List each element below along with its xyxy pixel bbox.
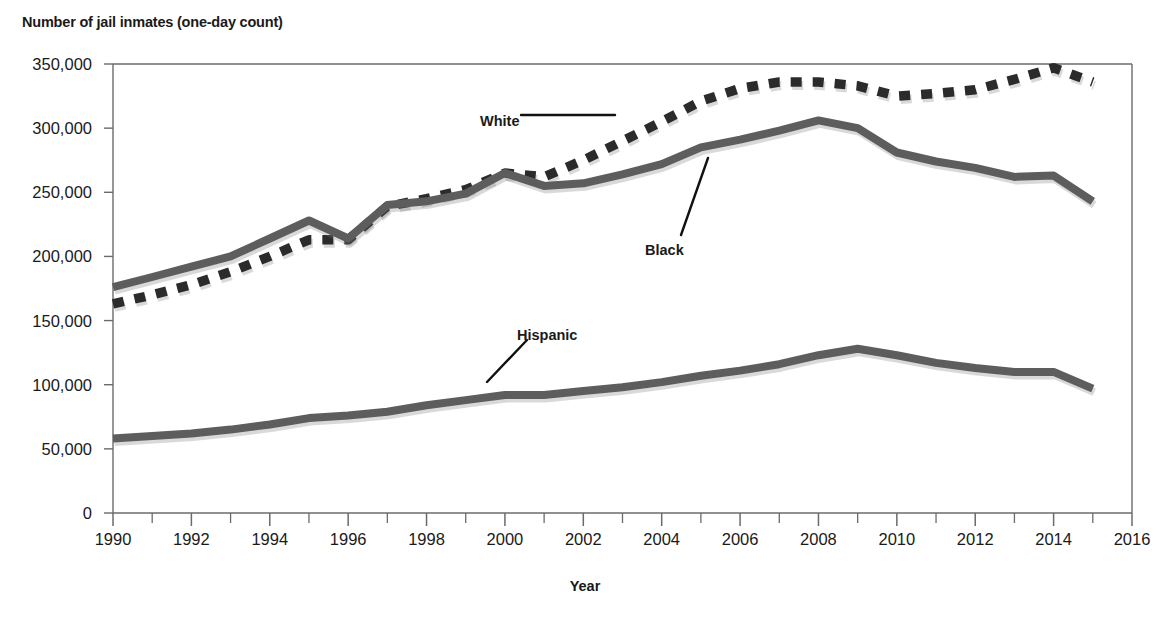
x-tick-label: 2010: [878, 530, 915, 549]
series-label-black: Black: [645, 242, 684, 258]
series-line-black: [113, 120, 1093, 287]
x-tick-label: 1994: [251, 530, 288, 549]
x-tick-label: 1998: [408, 530, 445, 549]
x-tick-label: 2014: [1035, 530, 1072, 549]
x-tick-label: 1992: [173, 530, 210, 549]
plot-canvas: [0, 0, 1170, 621]
x-tick-label: 2006: [722, 530, 759, 549]
x-tick-label: 2008: [800, 530, 837, 549]
x-tick-label: 2016: [1114, 530, 1151, 549]
series-shadow-white: [115, 71, 1095, 307]
x-tick-label: 1996: [330, 530, 367, 549]
jail-inmates-line-chart: Number of jail inmates (one-day count) 0…: [0, 0, 1170, 621]
series-group: [113, 68, 1094, 442]
x-tick-label: 2004: [643, 530, 680, 549]
leader-line-hispanic: [487, 340, 527, 382]
x-tick-label: 2012: [957, 530, 994, 549]
x-tick-label: 2000: [487, 530, 524, 549]
series-label-hispanic: Hispanic: [517, 327, 577, 343]
x-tick-label: 2002: [565, 530, 602, 549]
x-axis-title: Year: [0, 578, 1170, 594]
series-shadow-black: [115, 124, 1095, 291]
axes-group: [104, 64, 1132, 526]
leader-line-black: [681, 158, 708, 235]
series-label-white: White: [480, 113, 519, 129]
x-tick-label: 1990: [95, 530, 132, 549]
